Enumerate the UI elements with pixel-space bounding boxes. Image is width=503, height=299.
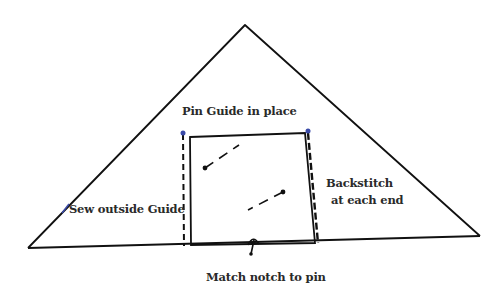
notch-pin-head xyxy=(249,252,253,256)
diagram-canvas xyxy=(0,0,503,299)
pin-marker-top-left xyxy=(181,131,186,136)
guide-square xyxy=(190,133,315,245)
left-stitch-line xyxy=(183,134,184,246)
pin-marker-top-right xyxy=(306,129,311,134)
label-each-end: at each end xyxy=(331,193,403,207)
label-pin-guide: Pin Guide in place xyxy=(182,104,297,118)
label-backstitch: Backstitch xyxy=(326,176,393,190)
pin-shaft-1 xyxy=(205,145,239,168)
label-match-notch: Match notch to pin xyxy=(206,270,326,284)
label-sew-outside: Sew outside Guide xyxy=(69,202,185,216)
left-edge-blue-mark xyxy=(62,204,69,213)
pin-shaft-2 xyxy=(248,192,283,210)
